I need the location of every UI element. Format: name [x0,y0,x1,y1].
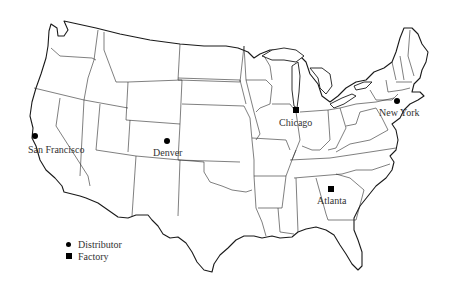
lake-ontario [354,82,372,90]
us-map: San Francisco Denver Chicago New York At… [0,0,453,294]
legend-item-distributor: Distributor [66,238,122,250]
country-outline [30,21,428,272]
lake-michigan [292,62,300,108]
legend-label: Distributor [78,239,122,250]
city-label-denver: Denver [153,148,182,158]
city-label-new-york: New York [379,108,420,118]
new-york-distributor-marker [394,98,400,104]
chicago-factory-marker [293,107,299,113]
map-legend: Distributor Factory [66,238,122,262]
city-label-san-francisco: San Francisco [28,145,84,155]
state-borders [34,30,414,236]
legend-label: Factory [78,251,109,262]
city-label-atlanta: Atlanta [317,196,346,206]
city-label-chicago: Chicago [279,118,312,128]
atlanta-factory-marker [328,186,334,192]
square-icon [66,253,72,259]
circle-icon [66,242,71,247]
lake-erie [330,94,356,108]
lake-huron [310,68,332,94]
san-francisco-distributor-marker [32,133,38,139]
legend-item-factory: Factory [66,250,122,262]
denver-distributor-marker [164,138,170,144]
